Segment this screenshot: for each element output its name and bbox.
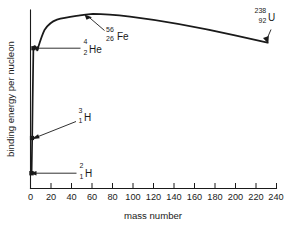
annotation-fe56-atomic-number: 26 — [106, 35, 114, 42]
x-axis-title: mass number — [124, 210, 183, 221]
x-tick-label-0: 0 — [28, 192, 33, 202]
binding-energy-curve-chart: 0 20 40 60 80 100 120 140 160 180 200 22… — [0, 0, 293, 235]
x-tick-label-40: 40 — [66, 192, 76, 202]
annotation-u238-atomic-number: 92 — [259, 17, 267, 24]
annotation-fe56-symbol: Fe — [117, 31, 129, 42]
x-tick-label-180: 180 — [207, 192, 222, 202]
x-tick-label-240: 240 — [268, 192, 283, 202]
annotation-u238-symbol: U — [268, 12, 275, 23]
x-tick-label-200: 200 — [228, 192, 243, 202]
annotation-he4-mass-number: 4 — [84, 38, 88, 45]
annotation-he4-atomic-number: 2 — [84, 49, 88, 56]
x-tick-label-20: 20 — [46, 192, 56, 202]
annotation-h2-mass-number: 2 — [80, 162, 84, 169]
annotation-h3-mass-number: 3 — [79, 107, 83, 114]
x-tick-label-120: 120 — [146, 192, 161, 202]
x-tick-label-160: 160 — [187, 192, 202, 202]
x-tick-label-60: 60 — [87, 192, 97, 202]
annotation-h2-atomic-number: 1 — [80, 173, 84, 180]
annotation-he4-symbol: He — [89, 44, 102, 55]
annotation-fe56-mass-number: 56 — [106, 26, 114, 33]
annotation-h3-atomic-number: 1 — [79, 117, 83, 124]
x-tick-label-220: 220 — [248, 192, 263, 202]
annotation-u238-mass-number: 238 — [255, 7, 267, 14]
annotation-h3-symbol: H — [84, 112, 91, 123]
x-tick-label-140: 140 — [166, 192, 181, 202]
x-tick-label-80: 80 — [107, 192, 117, 202]
chart-figure: 0 20 40 60 80 100 120 140 160 180 200 22… — [0, 0, 293, 235]
annotation-h2-symbol: H — [85, 168, 92, 179]
x-tick-label-100: 100 — [125, 192, 140, 202]
y-axis-title: binding energy per nucleon — [5, 41, 16, 157]
